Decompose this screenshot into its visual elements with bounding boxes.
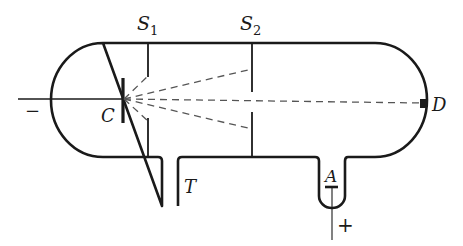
label-s1: S1 bbox=[137, 12, 158, 38]
label-anode: A bbox=[323, 166, 337, 186]
cathode-ray-tube-diagram: S1 S2 C D T A − + bbox=[0, 0, 463, 246]
label-tube: T bbox=[184, 176, 198, 197]
label-detector: D bbox=[431, 94, 447, 115]
detector-block bbox=[420, 99, 427, 108]
ray-lines bbox=[124, 69, 422, 129]
label-cathode: C bbox=[101, 105, 115, 126]
label-negative: − bbox=[25, 100, 40, 121]
label-positive: + bbox=[337, 213, 354, 237]
label-s2: S2 bbox=[240, 12, 261, 38]
